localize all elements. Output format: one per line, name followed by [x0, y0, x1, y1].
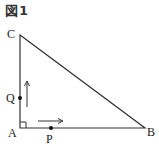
arrow-up-icon [25, 81, 30, 107]
point-q [18, 96, 22, 100]
triangle-abc [20, 35, 145, 128]
label-p: P [46, 132, 53, 146]
triangle-diagram: C Q A P B [0, 0, 159, 151]
arrow-right-icon [38, 119, 63, 124]
label-a: A [8, 126, 17, 140]
label-q: Q [6, 91, 15, 105]
label-c: C [7, 27, 15, 41]
point-p [49, 126, 53, 130]
right-angle-mark [20, 122, 26, 128]
label-b: B [147, 125, 155, 139]
